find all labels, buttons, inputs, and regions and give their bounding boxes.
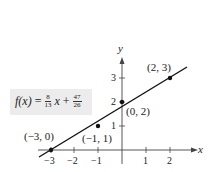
- point-0-2: [120, 100, 124, 104]
- point-label: (2, 3): [147, 62, 171, 73]
- intercept-denominator: 26: [74, 102, 81, 109]
- y-tick-label: 3: [111, 73, 116, 83]
- point-label: (−1, 1): [82, 133, 112, 144]
- slope-denominator: 13: [44, 102, 51, 109]
- point-neg1-1: [96, 124, 100, 128]
- equation-plus: +: [63, 94, 70, 109]
- y-axis-arrow-icon: [120, 57, 125, 64]
- x-axis-label: x: [198, 144, 203, 155]
- x-tick-label: −1: [91, 156, 102, 166]
- x-axis-arrow-icon: [191, 148, 198, 153]
- equation-variable: x: [54, 94, 59, 109]
- y-tick-label: 1: [111, 121, 116, 131]
- chart-plot: [0, 0, 212, 172]
- point-label: (0, 2): [126, 106, 150, 117]
- x-tick-label: −3: [44, 156, 55, 166]
- point-2-3: [168, 76, 172, 80]
- x-tick-label: 2: [167, 156, 172, 166]
- point-neg3-0: [49, 148, 53, 152]
- point-label: (−3, 0): [24, 131, 54, 142]
- y-tick-label: 2: [111, 97, 116, 107]
- equation-equals: =: [35, 94, 42, 109]
- y-axis-label: y: [118, 43, 123, 54]
- equation-lhs: f(x): [15, 94, 32, 109]
- fraction-slope: 8 13: [44, 94, 51, 109]
- x-tick-label: −2: [67, 156, 78, 166]
- x-tick-label: 1: [143, 156, 148, 166]
- fraction-intercept: 47 26: [73, 94, 82, 109]
- equation-label: f(x) = 8 13 x + 47 26: [15, 94, 82, 109]
